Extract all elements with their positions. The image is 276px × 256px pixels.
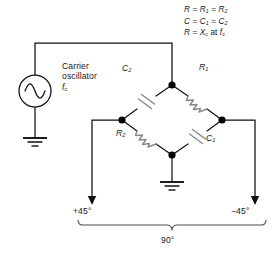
resistor-r1 [187, 96, 208, 112]
carrier-oscillator-label: Carrier oscillator fc [62, 61, 97, 94]
resistor-r2 [136, 131, 157, 147]
output-arrows [88, 196, 259, 205]
formula-line-3: R = Xc at fc [184, 28, 228, 40]
formula-line-2: C = C1 = C2 [184, 17, 228, 29]
node-top [168, 81, 175, 88]
capacitor-c2 [139, 95, 155, 109]
wire-right-output [222, 120, 255, 200]
oscillator-label-line1: Carrier [62, 61, 97, 71]
ac-source-sine-icon [19, 75, 51, 107]
oscillator-frequency-label: fc [62, 82, 97, 94]
capacitor-c1-label: C1 [206, 133, 216, 144]
capacitor-c2-label: C2 [122, 63, 132, 74]
circuit-diagram: R = R1 = R2 C = C1 = C2 R = Xc at fc Car… [0, 0, 276, 256]
ground-symbol-bridge [160, 182, 184, 190]
node-right [218, 116, 225, 123]
phase-span-brace [78, 220, 266, 230]
arrowhead-left-output [88, 196, 96, 205]
output-phase-right-label: −45° [231, 206, 249, 216]
phase-span-label: 90° [161, 235, 174, 245]
output-phase-left-label: +45° [73, 206, 91, 216]
resistor-r2-label: R2 [116, 128, 126, 139]
ground-symbol-source [23, 138, 47, 146]
node-left [118, 116, 125, 123]
node-bottom [168, 151, 175, 158]
arrowhead-right-output [251, 196, 259, 205]
circuit-schematic-svg [0, 0, 276, 256]
resistor-r1-label: R1 [199, 62, 209, 73]
capacitor-c1 [190, 130, 206, 144]
wire-source-to-bridge-top [35, 43, 172, 85]
bridge-arm-wires [122, 85, 222, 155]
formula-line-1: R = R1 = R2 [184, 5, 228, 17]
oscillator-label-line2: oscillator [62, 71, 97, 81]
junction-dots [118, 81, 225, 158]
formula-block: R = R1 = R2 C = C1 = C2 R = Xc at fc [184, 5, 228, 40]
